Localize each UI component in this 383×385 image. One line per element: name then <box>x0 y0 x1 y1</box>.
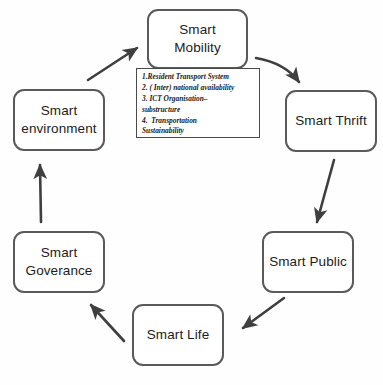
detail-list: 1.Resident Transport System 2. ( Inter) … <box>142 72 256 137</box>
node-smart-goverance[interactable]: Smart Goverance <box>13 231 105 293</box>
node-smart-public-label: Smart Public <box>265 253 351 271</box>
arrow-thrift-to-public <box>317 160 334 222</box>
smart-mobility-detail-box: 1.Resident Transport System 2. ( Inter) … <box>136 68 260 138</box>
node-smart-environment-label: Smart environment <box>17 102 100 137</box>
arrow-mobility-to-thrift <box>256 58 299 82</box>
node-smart-mobility[interactable]: Smart Mobility <box>147 9 248 69</box>
node-smart-environment[interactable]: Smart environment <box>13 89 105 151</box>
detail-list-item: 2. ( Inter) national availability <box>142 83 256 94</box>
node-smart-public[interactable]: Smart Public <box>262 231 354 293</box>
detail-list-item: 1.Resident Transport System <box>142 72 256 83</box>
arrow-public-to-life <box>243 298 284 328</box>
detail-list-item: Sustainability <box>142 126 256 137</box>
node-smart-goverance-label: Smart Goverance <box>22 244 97 279</box>
detail-list-item: 4. Transportation <box>142 116 256 127</box>
cycle-diagram: Smart Mobility Smart Thrift Smart Public… <box>0 0 383 385</box>
node-smart-thrift-label: Smart Thrift <box>291 112 370 130</box>
arrow-environment-to-mobility <box>88 48 137 80</box>
node-smart-mobility-label: Smart Mobility <box>170 21 225 56</box>
node-smart-life[interactable]: Smart Life <box>132 304 224 366</box>
arrow-goverance-to-environment <box>40 165 41 222</box>
node-smart-life-label: Smart Life <box>143 326 214 344</box>
arrow-life-to-goverance <box>91 305 124 341</box>
detail-list-item: 3. ICT Organisation– <box>142 94 256 105</box>
node-smart-thrift[interactable]: Smart Thrift <box>285 90 377 152</box>
detail-list-item: substructure <box>142 105 256 116</box>
